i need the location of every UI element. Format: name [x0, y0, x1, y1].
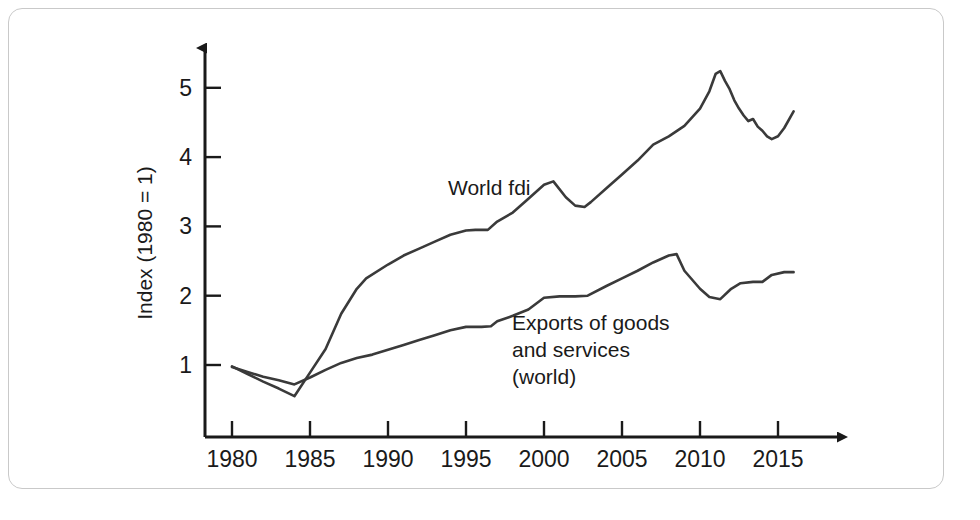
x-axis-ticks: 19801985199019952000200520102015 [206, 421, 803, 472]
x-tick-label: 2010 [674, 446, 725, 472]
line-chart: 12345 19801985199019952000200520102015 W… [0, 0, 980, 520]
exports-label-line-2: and services [512, 338, 630, 361]
y-tick-label: 3 [179, 213, 192, 239]
x-tick-label: 2005 [596, 446, 647, 472]
x-tick-label: 1990 [362, 446, 413, 472]
x-tick-label: 2000 [518, 446, 569, 472]
y-axis-ticks: 12345 [179, 75, 221, 378]
y-tick-label: 1 [179, 352, 192, 378]
exports-label-line-3: (world) [512, 365, 576, 388]
x-tick-label: 1985 [284, 446, 335, 472]
x-tick-label: 2015 [752, 446, 803, 472]
y-tick-label: 5 [179, 75, 192, 101]
exports-label-line-1: Exports of goods [512, 311, 670, 334]
series-annotations: World fdiExports of goodsand services(wo… [448, 176, 670, 388]
x-tick-label: 1995 [440, 446, 491, 472]
y-tick-label: 2 [179, 283, 192, 309]
x-tick-label: 1980 [206, 446, 257, 472]
y-axis-title: Index (1980 = 1) [133, 166, 156, 320]
world-fdi-label: World fdi [448, 176, 530, 199]
figure-root: 12345 19801985199019952000200520102015 W… [0, 0, 980, 520]
y-tick-label: 4 [179, 144, 192, 170]
